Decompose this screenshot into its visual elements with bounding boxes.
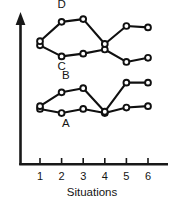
data-point-marker	[59, 89, 65, 95]
data-point-marker	[124, 59, 130, 65]
x-tick-label-5: 5	[123, 170, 129, 182]
series-label-b: B	[62, 69, 70, 81]
x-tick-label-6: 6	[145, 170, 151, 182]
series-layer	[37, 16, 151, 116]
x-axis-tick-labels: 1 2 3 4 5 6	[37, 170, 151, 182]
x-axis-title: Situations	[67, 186, 118, 198]
y-axis-arrow-icon	[16, 12, 26, 25]
data-point-marker	[80, 51, 86, 57]
data-point-marker	[124, 80, 130, 86]
data-point-marker	[80, 106, 86, 112]
data-point-marker	[124, 23, 130, 29]
data-point-marker	[102, 41, 108, 47]
x-axis-ticks	[40, 158, 148, 163]
data-point-marker	[59, 19, 65, 25]
series-d	[37, 16, 151, 47]
series-b	[37, 80, 151, 115]
data-point-marker	[80, 85, 86, 91]
series-c	[37, 42, 151, 64]
data-point-marker	[145, 55, 151, 61]
x-axis: 1 2 3 4 5 6 Situations	[19, 158, 168, 198]
data-point-marker	[59, 110, 65, 116]
line-chart: 1 2 3 4 5 6 Situations DCBA	[0, 0, 178, 202]
chart-canvas: 1 2 3 4 5 6 Situations DCBA	[0, 0, 178, 202]
x-tick-label-4: 4	[102, 170, 108, 182]
data-point-marker	[59, 54, 65, 60]
data-point-marker	[145, 103, 151, 109]
series-label-d: D	[57, 0, 65, 10]
data-point-marker	[145, 24, 151, 30]
y-axis	[16, 12, 26, 165]
x-tick-label-1: 1	[37, 170, 43, 182]
series-line-d	[40, 19, 148, 44]
x-tick-label-3: 3	[80, 170, 86, 182]
series-a	[37, 103, 151, 116]
data-point-marker	[37, 38, 43, 44]
series-line-a	[40, 106, 148, 113]
series-line-c	[40, 45, 148, 62]
data-point-marker	[80, 16, 86, 22]
data-point-marker	[124, 105, 130, 111]
data-point-marker	[102, 109, 108, 115]
x-tick-label-2: 2	[59, 170, 65, 182]
data-point-marker	[145, 80, 151, 86]
series-label-a: A	[62, 117, 70, 129]
data-point-marker	[37, 103, 43, 109]
